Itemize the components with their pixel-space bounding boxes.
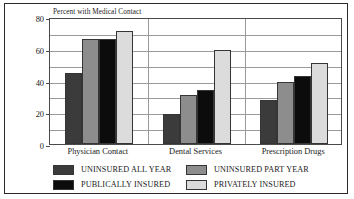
bar-1-0: [163, 114, 180, 144]
bar-2-2: [294, 76, 311, 144]
y-axis-label: 60: [36, 46, 44, 55]
x-axis-label-1: Dental Services: [169, 147, 222, 156]
legend-swatch-icon-1: [186, 165, 207, 175]
y-axis-tick: [46, 83, 50, 84]
legend-swatch-icon-3: [186, 180, 207, 190]
y-axis-tick: [46, 51, 50, 52]
bar-1-1: [180, 95, 197, 144]
bar-0-0: [65, 73, 82, 144]
legend-swatch-icon-0: [53, 165, 74, 175]
group-separator: [148, 19, 149, 144]
bar-2-3: [311, 63, 328, 144]
legend-row: UNINSURED ALL YEAR UNINSURED PART YEAR: [53, 162, 343, 177]
y-axis-label: 40: [36, 78, 44, 87]
legend-row: PUBLICALLY INSURED PRIVATELY INSURED: [53, 177, 343, 192]
bar-1-2: [197, 90, 214, 144]
y-axis-tick: [46, 114, 50, 115]
x-axis-label-0: Physician Contact: [67, 147, 128, 156]
legend-label-0: UNINSURED ALL YEAR: [81, 165, 171, 174]
chart-title: Percent with Medical Contact: [53, 8, 141, 16]
legend-item-1: UNINSURED PART YEAR: [186, 165, 309, 175]
x-axis-label-2: Prescription Drugs: [262, 147, 325, 156]
gridline: [50, 35, 341, 36]
bar-0-3: [116, 31, 133, 144]
chart-legend: UNINSURED ALL YEAR UNINSURED PART YEAR P…: [53, 162, 343, 192]
legend-label-1: UNINSURED PART YEAR: [214, 165, 309, 174]
y-axis-tick: [46, 19, 50, 20]
y-axis-label: 0: [40, 142, 44, 151]
group-separator: [245, 19, 246, 144]
legend-item-3: PRIVATELY INSURED: [186, 180, 296, 190]
bar-2-1: [277, 82, 294, 144]
bar-0-1: [82, 39, 99, 144]
chart-frame: Percent with Medical Contact 020406080 P…: [4, 3, 348, 194]
y-axis-label: 80: [36, 15, 44, 24]
bar-1-3: [214, 50, 231, 144]
plot-area: 020406080: [49, 18, 342, 145]
bar-2-0: [260, 100, 277, 144]
bar-0-2: [99, 39, 116, 144]
y-axis-tick: [46, 146, 50, 147]
legend-label-2: PUBLICALLY INSURED: [81, 180, 170, 189]
y-axis-label: 20: [36, 110, 44, 119]
legend-item-2: PUBLICALLY INSURED: [53, 180, 186, 190]
legend-label-3: PRIVATELY INSURED: [214, 180, 296, 189]
legend-item-0: UNINSURED ALL YEAR: [53, 165, 186, 175]
legend-swatch-icon-2: [53, 180, 74, 190]
